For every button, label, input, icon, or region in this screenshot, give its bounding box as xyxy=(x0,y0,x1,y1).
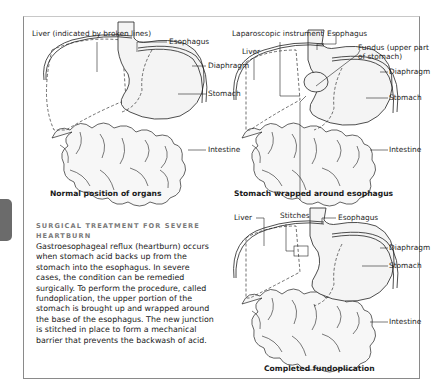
sidebar-heading: Surgical treatment for severe heartburn xyxy=(36,222,216,241)
caption-completed: Completed fundoplication xyxy=(264,364,375,373)
panel-stomach-wrapped: Laparoscopic instrument Esophagus Liver … xyxy=(232,20,422,200)
label-liver: Liver xyxy=(234,214,252,223)
label-esophagus: Esophagus xyxy=(327,30,367,39)
label-diaphragm: Diaphragm xyxy=(389,68,430,77)
label-laparoscopic-instrument: Laparoscopic instrument xyxy=(232,30,323,39)
label-intestine: Intestine xyxy=(389,318,421,327)
completed-organs-illustration xyxy=(232,206,422,376)
label-stitches: Stitches xyxy=(280,212,310,221)
label-diaphragm: Diaphragm xyxy=(389,244,430,253)
heading-line-2: heartburn xyxy=(36,232,216,242)
label-stomach: Stomach xyxy=(389,94,422,103)
label-stomach: Stomach xyxy=(389,262,422,271)
label-liver: Liver xyxy=(242,48,260,57)
section-tab xyxy=(0,199,12,241)
label-esophagus: Esophagus xyxy=(169,38,209,47)
label-esophagus: Esophagus xyxy=(338,214,378,223)
sidebar-text-block: Surgical treatment for severe heartburn … xyxy=(36,222,216,346)
panel-completed-fundoplication: Liver Stitches Esophagus Diaphragm Stoma… xyxy=(232,206,422,376)
fundus-wrap xyxy=(304,72,328,92)
sidebar-body: Gastroesophageal reflux (heartburn) occu… xyxy=(36,242,216,346)
label-intestine: Intestine xyxy=(389,146,421,155)
caption-wrapped: Stomach wrapped around esophagus xyxy=(234,189,393,198)
label-fundus-line2: of stomach) xyxy=(358,53,402,62)
label-liver: Liver (indicated by broken lines) xyxy=(32,30,151,39)
normal-organs-illustration xyxy=(30,20,230,200)
panel-normal-position: Liver (indicated by broken lines) Esopha… xyxy=(30,20,230,200)
heading-line-1: Surgical treatment for severe xyxy=(36,222,216,232)
caption-normal: Normal position of organs xyxy=(50,189,162,198)
